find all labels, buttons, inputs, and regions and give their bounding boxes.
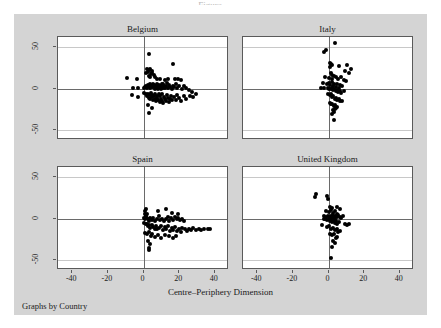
data-point [338,207,342,211]
data-point [208,227,212,231]
x-tick-label: -20 [277,274,307,283]
x-tick-mark [292,270,293,273]
data-point [174,234,178,238]
y-tick-mark [53,218,56,219]
y-gridline [58,177,227,178]
data-point [341,214,345,218]
data-point [349,67,353,71]
clipped-top-text: Figure [150,0,270,5]
data-point [179,99,183,103]
y-tick-mark [53,46,56,47]
y-gridline [58,260,227,261]
data-point [158,77,162,81]
data-point [330,245,334,249]
data-point [148,75,152,79]
data-point [191,95,195,99]
x-tick-label: 40 [384,274,414,283]
x-tick-label: -40 [241,274,271,283]
x-tick-label: 20 [163,274,193,283]
figure-canvas: Belgium Italy Spain United Kingdom -5005… [14,14,427,315]
data-point [340,84,344,88]
x-tick-mark [214,270,215,273]
scatter-panel-belgium [57,36,228,139]
y-gridline [58,130,227,131]
panel-title-united-kingdom: United Kingdom [242,154,413,165]
data-point [130,93,134,97]
data-point [136,95,140,99]
y-gridline [243,177,412,178]
x-tick-label: 0 [313,274,343,283]
x-tick-mark [107,270,108,273]
data-point [150,106,154,110]
y-tick-mark [53,259,56,260]
y-tick-mark [53,176,56,177]
data-point [332,118,336,122]
y-gridline [243,260,412,261]
x-tick-mark [71,270,72,273]
data-point [313,195,317,199]
panel-title-italy: Italy [242,24,413,35]
y-tick-label: 0 [31,207,41,229]
y-tick-label: 50 [31,165,41,187]
data-point [320,223,324,227]
data-point [147,111,151,115]
x-tick-mark [399,270,400,273]
data-point [179,230,183,234]
data-point [135,77,139,81]
data-point [347,222,351,226]
data-point [345,63,349,67]
data-point [125,76,129,80]
x-tick-label: -20 [92,274,122,283]
data-point [156,209,160,213]
x-tick-label: 0 [128,274,158,283]
data-point [164,207,168,211]
x-axis-title: Centre–Periphery Dimension [14,287,427,297]
scatter-panel-united-kingdom [242,166,413,269]
data-point [330,112,334,116]
data-point [333,41,337,45]
y-tick-label: -50 [31,118,41,140]
y-tick-label: 0 [31,77,41,99]
data-point [147,52,151,56]
scatter-panel-italy [242,36,413,139]
data-point [163,233,167,237]
y-gridline [243,130,412,131]
data-point [333,107,337,111]
data-point [147,248,151,252]
data-point [342,89,346,93]
y-tick-mark [53,88,56,89]
y-tick-label: 50 [31,35,41,57]
scatter-panel-spain [57,166,228,269]
x-tick-mark [143,270,144,273]
x-tick-mark [178,270,179,273]
x-tick-mark [363,270,364,273]
panel-title-belgium: Belgium [57,24,228,35]
x-tick-label: -40 [56,274,86,283]
data-point [347,71,351,75]
data-point [171,62,175,66]
data-point [330,63,334,67]
data-point [344,79,348,83]
data-point [131,86,135,90]
x-tick-mark [256,270,257,273]
x-tick-label: 20 [348,274,378,283]
data-point [338,229,342,233]
y-tick-label: -50 [31,248,41,270]
data-point [337,64,341,68]
x-tick-mark [328,270,329,273]
data-point [182,219,186,223]
data-point [335,235,339,239]
y-gridline [58,47,227,48]
panel-title-spain: Spain [57,154,228,165]
data-point [326,197,330,201]
data-point [340,99,344,103]
data-point [337,220,341,224]
x-tick-label: 40 [199,274,229,283]
data-point [170,211,174,215]
data-point [322,50,326,54]
data-point [136,86,140,90]
y-tick-mark [53,129,56,130]
data-point [179,78,183,82]
figure-note: Graphs by Country [22,301,87,311]
